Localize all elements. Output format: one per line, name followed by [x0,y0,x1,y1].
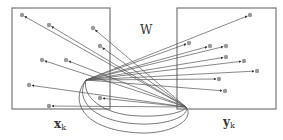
point-x [47,104,51,108]
point-x [98,96,102,100]
point-y [224,44,228,48]
point-y [217,77,221,81]
label-x-sub: k [61,123,66,132]
edge-arrow [52,106,186,107]
label-y-sub: k [230,121,235,130]
edge-arrow [86,47,223,80]
left-box-x [12,8,110,109]
point-x [98,44,102,48]
edges-to-y [86,16,254,91]
point-x [64,58,68,62]
point-x [20,13,24,17]
point-x [27,83,31,87]
point-y [248,13,252,17]
edge-arrow [86,44,186,80]
point-y [255,69,259,73]
edge-arrow [69,61,186,107]
label-x-k: xk [54,118,66,132]
point-y [242,59,246,63]
point-y [187,41,191,45]
point-x [40,58,44,62]
point-x [47,23,51,27]
point-y [224,55,228,59]
mapping-diagram [0,0,283,140]
edge-arrow [45,61,186,107]
point-y [223,89,227,93]
edge-arrow [95,30,186,107]
label-y-k: yk [223,116,235,130]
label-y: y [223,115,230,129]
edge-arrow [32,85,186,107]
label-w: W [140,24,152,36]
point-x [91,26,95,30]
point-y [208,44,212,48]
